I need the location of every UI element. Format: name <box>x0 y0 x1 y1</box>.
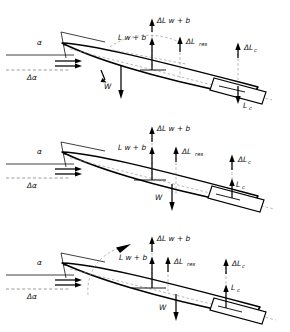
svg-text:c: c <box>249 105 252 111</box>
lwb-label: L w + b <box>118 33 146 42</box>
weight-label: W <box>104 82 112 91</box>
svg-text:res: res <box>195 151 203 157</box>
rotation-arrow <box>101 70 107 83</box>
svg-text:c: c <box>242 263 245 269</box>
svg-text:L: L <box>236 180 240 189</box>
svg-text:c: c <box>242 184 245 190</box>
weight-label: W <box>155 193 163 202</box>
panel-top: α Δα ΔL w + b <box>0 0 290 112</box>
alpha-ray <box>61 32 105 42</box>
panel-bottom: α Δα ΔL w + b L w + b <box>0 220 290 332</box>
alpha-ray <box>61 142 105 151</box>
lc-label: L c <box>236 180 245 190</box>
svg-text:c: c <box>248 159 251 165</box>
alpha-ray <box>61 253 105 262</box>
svg-text:ΔL: ΔL <box>173 257 183 266</box>
svg-text:ΔL: ΔL <box>237 155 247 164</box>
svg-text:L: L <box>231 283 235 292</box>
delta-lc-label: ΔL c <box>237 155 251 165</box>
alpha-label: α <box>37 147 42 156</box>
lc-label: L c <box>231 283 240 293</box>
flow-arrows <box>55 167 82 177</box>
svg-text:ΔL: ΔL <box>181 147 191 156</box>
delta-lwb-label: ΔL w + b <box>156 234 190 243</box>
lwb-label: L w + b <box>118 143 146 152</box>
delta-lwb-label: ΔL w + b <box>156 124 190 133</box>
panel-middle: α Δα ΔL w + b L w + b ΔL res <box>0 112 290 220</box>
svg-text:c: c <box>237 287 240 293</box>
flow-arrows <box>55 59 82 69</box>
delta-lc-label: ΔL c <box>243 43 257 53</box>
delta-lwb-label: ΔL w + b <box>156 16 190 25</box>
flow-arrows <box>55 278 82 288</box>
figure-canvas: α Δα ΔL w + b <box>0 0 290 332</box>
weight-vector <box>118 66 123 99</box>
delta-lres-label: ΔL res <box>181 147 203 157</box>
alpha-label: α <box>37 258 42 267</box>
lc-label: L c <box>243 101 252 111</box>
delta-lres-label: ΔL res <box>173 257 195 267</box>
lwb-label: L w + b <box>119 253 147 262</box>
delta-lres-label: ΔL res <box>185 37 207 47</box>
svg-text:ΔL: ΔL <box>243 43 253 52</box>
weight-label: W <box>159 303 167 312</box>
svg-text:res: res <box>199 41 207 47</box>
delta-lc-label: ΔL c <box>231 259 245 269</box>
svg-text:c: c <box>254 47 257 53</box>
svg-text:res: res <box>187 261 195 267</box>
alpha-label: α <box>37 38 42 47</box>
delta-alpha-label: Δα <box>26 292 37 301</box>
delta-alpha-label: Δα <box>26 73 37 82</box>
delta-alpha-label: Δα <box>26 181 37 190</box>
svg-text:ΔL: ΔL <box>185 37 195 46</box>
svg-text:L: L <box>243 101 247 110</box>
svg-text:ΔL: ΔL <box>231 259 241 268</box>
